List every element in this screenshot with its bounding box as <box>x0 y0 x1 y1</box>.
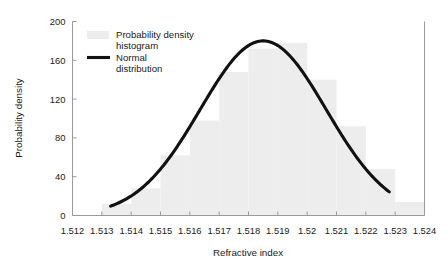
x-tick-label: 1.514 <box>119 225 142 236</box>
x-tick-label: 1.516 <box>178 225 201 236</box>
x-tick-label: 1.524 <box>413 225 436 236</box>
histogram-bar <box>102 204 131 216</box>
histogram-normal-distribution-chart: 1.5121.5131.5141.5151.5161.5171.5181.519… <box>0 0 446 272</box>
legend-label-histogram-line2: histogram <box>116 40 158 51</box>
histogram-bar <box>395 202 424 216</box>
x-tick-label: 1.523 <box>383 225 406 236</box>
y-axis-tickmarks <box>73 22 77 216</box>
x-tick-label: 1.519 <box>266 225 289 236</box>
legend-swatch-histogram-icon <box>87 31 109 39</box>
chart-legend: Probability density histogram Normal dis… <box>87 29 194 74</box>
y-tick-label: 120 <box>50 94 66 105</box>
histogram-bar <box>219 72 248 216</box>
x-tick-label: 1.522 <box>354 225 377 236</box>
x-tick-label: 1.52 <box>298 225 316 236</box>
histogram-bar <box>337 126 366 215</box>
legend-label-normal-line2: distribution <box>116 63 162 74</box>
legend-label-histogram-line1: Probability density <box>116 29 194 40</box>
legend-label-normal-line1: Normal <box>116 52 147 63</box>
histogram-bar <box>190 120 219 215</box>
x-tick-label: 1.515 <box>149 225 172 236</box>
y-tick-label: 200 <box>50 16 66 27</box>
x-tick-label: 1.518 <box>237 225 260 236</box>
y-tick-label: 0 <box>60 210 65 221</box>
y-axis-title: Probability density <box>13 78 24 158</box>
x-axis-title: Refractive index <box>213 247 283 258</box>
histogram-bar <box>278 43 307 216</box>
chart-figure: 1.5121.5131.5141.5151.5161.5171.5181.519… <box>0 0 446 272</box>
y-axis-tick-labels: 04080120160200 <box>50 16 66 221</box>
x-tick-label: 1.512 <box>61 225 84 236</box>
x-tick-label: 1.517 <box>207 225 230 236</box>
histogram-bar <box>249 49 278 216</box>
y-tick-label: 40 <box>55 171 65 182</box>
x-tick-label: 1.521 <box>325 225 348 236</box>
y-tick-label: 160 <box>50 55 66 66</box>
y-tick-label: 80 <box>55 132 65 143</box>
x-axis-tick-labels: 1.5121.5131.5141.5151.5161.5171.5181.519… <box>61 225 436 236</box>
x-tick-label: 1.513 <box>90 225 113 236</box>
